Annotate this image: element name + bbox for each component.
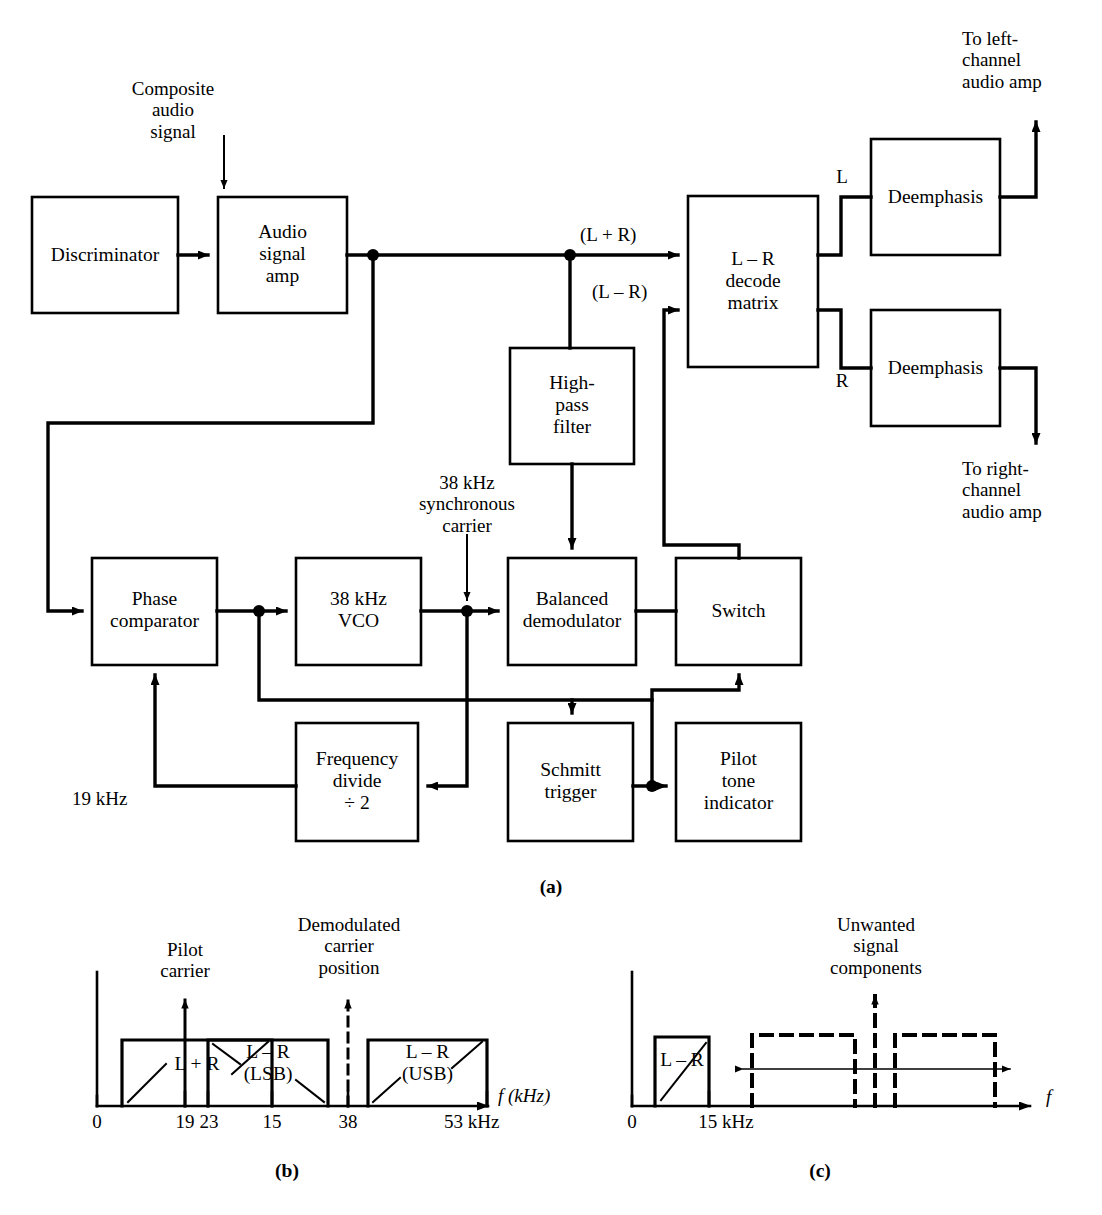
chart-b-tick-15: 15 (259, 1111, 285, 1132)
block-label-audio-signal-amp: Audio signal amp (218, 221, 347, 286)
chart-b-tick-38: 38 (335, 1111, 361, 1132)
annotation-lplusr: (L + R) (580, 224, 680, 245)
chart-c-band-label-lminusr: L – R (649, 1049, 715, 1071)
chart-c-tick-15: 15 kHz (684, 1111, 768, 1132)
block-label-deemphasis-right: Deemphasis (871, 357, 1000, 379)
block-label-phase-comparator: Phase comparator (86, 588, 223, 632)
chart-b-marker-label-demod-carrier: Demodulated carrier position (260, 914, 438, 978)
axis-c-ticks (632, 1092, 709, 1106)
wire-matrix-R-out (818, 310, 871, 368)
annotation-r-terminal: R (832, 370, 852, 391)
annotation-19khz: 19 kHz (72, 788, 172, 809)
annotation-composite-audio-signal: Composite audio signal (78, 78, 268, 142)
chart-b-marker-label-pilot-carrier: Pilot carrier (123, 939, 247, 982)
wire-divide-to-phase (155, 675, 296, 786)
chart-c-marker-label-unwanted: Unwanted signal components (790, 914, 962, 978)
wire-deemph-right-out (1000, 368, 1036, 443)
annotation-sync-carrier: 38 kHz synchronous carrier (372, 472, 562, 536)
block-label-pilot-tone-indicator: Pilot tone indicator (676, 748, 801, 813)
wire-matrix-L-out (818, 197, 871, 255)
chart-b-tick-19: 19 (172, 1111, 198, 1132)
annotation-to-right-channel: To right- channel audio amp (962, 458, 1102, 522)
chart-c-xaxis-label: f (1046, 1086, 1086, 1107)
dot-lr-split (564, 249, 576, 261)
dot-phase-out (253, 605, 265, 617)
wire-switch-to-matrix (664, 310, 739, 558)
block-label-switch: Switch (676, 600, 801, 622)
block-label-schmitt-trigger: Schmitt trigger (508, 759, 633, 803)
block-label-deemphasis-left: Deemphasis (871, 186, 1000, 208)
panel-label-c: (c) (765, 1160, 875, 1182)
chart-b-xaxis-label: f (kHz) (498, 1085, 578, 1106)
dot-schmitt-out (646, 780, 658, 792)
chart-b-band-label-usb: L – R (USB) (368, 1041, 487, 1085)
dot-audio-out (367, 249, 379, 261)
panel-label-b: (b) (232, 1160, 342, 1182)
block-label-vco-38khz: 38 kHz VCO (296, 588, 421, 632)
block-label-high-pass-filter: High- pass filter (510, 372, 634, 437)
panel-label-a: (a) (496, 876, 606, 898)
band-c-unwanted-upper (895, 1035, 995, 1106)
spectrum-c (632, 972, 1030, 1106)
band-c-lminusr (655, 1037, 709, 1106)
annotation-l-terminal: L (832, 166, 852, 187)
annotation-to-left-channel: To left- channel audio amp (962, 28, 1102, 92)
chart-b-band-label-lsb: L – R (LSB) (208, 1041, 328, 1085)
chart-c-tick-0: 0 (619, 1111, 645, 1132)
chart-b-tick-0: 0 (84, 1111, 110, 1132)
wire-deemph-left-out (1000, 122, 1036, 197)
chart-b-tick-23: 23 (196, 1111, 222, 1132)
annotation-lminusr: (L – R) (592, 281, 692, 302)
block-label-frequency-divide: Frequency divide ÷ 2 (294, 748, 420, 813)
axis-b-ticks (97, 1092, 487, 1106)
band-c-unwanted-lower (752, 1035, 855, 1106)
block-label-lr-decode-matrix: L – R decode matrix (688, 248, 818, 313)
dot-vco-out (461, 605, 473, 617)
block-label-discriminator: Discriminator (32, 244, 178, 266)
wires (48, 122, 1036, 786)
chart-b-tick-53: 53 kHz (444, 1111, 532, 1132)
spectrum-b (97, 972, 488, 1106)
block-label-balanced-demodulator: Balanced demodulator (505, 588, 639, 632)
